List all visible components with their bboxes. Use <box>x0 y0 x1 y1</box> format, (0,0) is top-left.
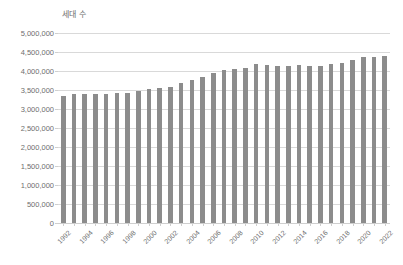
y-axis-tick-label: 2,000,000 <box>21 143 54 152</box>
bar <box>361 57 366 223</box>
x-axis-tick-mark <box>224 223 225 226</box>
x-axis-tick-mark <box>203 223 204 226</box>
x-axis-tick-mark <box>128 223 129 226</box>
x-axis-tick-mark <box>267 223 268 226</box>
x-axis-tick-mark <box>278 223 279 226</box>
bar <box>372 57 377 223</box>
x-axis-tick-mark <box>245 223 246 226</box>
bar <box>190 80 195 223</box>
bar <box>147 89 152 223</box>
bars-layer <box>58 33 390 223</box>
chart-title: 세대 수 <box>62 8 86 19</box>
x-axis-tick-mark <box>85 223 86 226</box>
bar <box>200 77 205 223</box>
x-axis-tick-label: 2020 <box>356 229 372 245</box>
x-axis-tick-mark <box>385 223 386 226</box>
x-axis-tick-mark <box>256 223 257 226</box>
bar <box>125 93 130 223</box>
x-axis-tick-label: 2016 <box>313 229 329 245</box>
bar <box>265 65 270 223</box>
y-axis-tick-label: 3,000,000 <box>21 105 54 114</box>
y-axis-tick-label: 3,500,000 <box>21 86 54 95</box>
x-axis-tick-mark <box>288 223 289 226</box>
x-axis-tick-mark <box>299 223 300 226</box>
x-axis-tick-label: 1994 <box>78 229 94 245</box>
x-axis-tick-mark <box>331 223 332 226</box>
bar <box>243 68 248 223</box>
bar-chart: 세대 수 0500,0001,000,0001,500,0002,000,000… <box>0 0 403 265</box>
x-axis-tick-mark <box>342 223 343 226</box>
bar <box>136 91 141 223</box>
bar <box>232 69 237 223</box>
x-axis: 1992199419961998200020022004200620082010… <box>58 223 390 265</box>
x-axis-tick-mark <box>63 223 64 226</box>
bar <box>82 94 87 223</box>
bar <box>340 63 345 223</box>
y-axis-tick-label: 4,000,000 <box>21 67 54 76</box>
bar <box>297 65 302 223</box>
x-axis-tick-mark <box>138 223 139 226</box>
x-axis-tick-mark <box>192 223 193 226</box>
bar <box>168 87 173 223</box>
x-axis-tick-label: 2000 <box>142 229 158 245</box>
x-axis-tick-label: 2010 <box>249 229 265 245</box>
x-axis-tick-label: 2006 <box>206 229 222 245</box>
x-axis-tick-mark <box>310 223 311 226</box>
y-axis-tick-label: 500,000 <box>27 200 54 209</box>
x-axis-tick-mark <box>235 223 236 226</box>
bar <box>350 60 355 223</box>
bar <box>61 96 66 223</box>
bar <box>157 88 162 223</box>
bar <box>382 56 387 223</box>
bar <box>104 94 109 223</box>
y-axis-tick-label: 1,000,000 <box>21 181 54 190</box>
x-axis-tick-mark <box>320 223 321 226</box>
x-axis-tick-mark <box>160 223 161 226</box>
y-axis-tick-label: 2,500,000 <box>21 124 54 133</box>
x-axis-tick-label: 2022 <box>378 229 394 245</box>
x-axis-tick-mark <box>170 223 171 226</box>
bar <box>179 83 184 223</box>
y-axis-tick-label: 4,500,000 <box>21 48 54 57</box>
y-axis-tick-label: 1,500,000 <box>21 162 54 171</box>
y-axis: 0500,0001,000,0001,500,0002,000,0002,500… <box>0 33 54 223</box>
x-axis-tick-mark <box>181 223 182 226</box>
x-axis-tick-mark <box>106 223 107 226</box>
bar <box>115 93 120 223</box>
bar <box>72 94 77 223</box>
bar <box>329 64 334 223</box>
bar <box>93 94 98 223</box>
x-axis-tick-mark <box>374 223 375 226</box>
y-axis-tick-label: 0 <box>50 219 54 228</box>
x-axis-tick-mark <box>213 223 214 226</box>
x-axis-tick-mark <box>363 223 364 226</box>
x-axis-tick-mark <box>74 223 75 226</box>
bar <box>286 66 291 223</box>
bar <box>222 70 227 223</box>
x-axis-tick-label: 1992 <box>56 229 72 245</box>
x-axis-tick-label: 2018 <box>335 229 351 245</box>
x-axis-tick-mark <box>95 223 96 226</box>
bar <box>318 66 323 223</box>
y-axis-tick-label: 5,000,000 <box>21 29 54 38</box>
x-axis-tick-mark <box>149 223 150 226</box>
x-axis-tick-label: 2004 <box>185 229 201 245</box>
x-axis-tick-label: 2008 <box>228 229 244 245</box>
x-axis-tick-label: 2002 <box>163 229 179 245</box>
x-axis-tick-mark <box>353 223 354 226</box>
bar <box>275 66 280 223</box>
x-axis-tick-label: 2014 <box>292 229 308 245</box>
bar <box>254 64 259 223</box>
x-axis-tick-label: 2012 <box>271 229 287 245</box>
bar <box>307 66 312 223</box>
x-axis-tick-mark <box>117 223 118 226</box>
bar <box>211 73 216 223</box>
x-axis-tick-label: 1998 <box>121 229 137 245</box>
x-axis-tick-label: 1996 <box>99 229 115 245</box>
